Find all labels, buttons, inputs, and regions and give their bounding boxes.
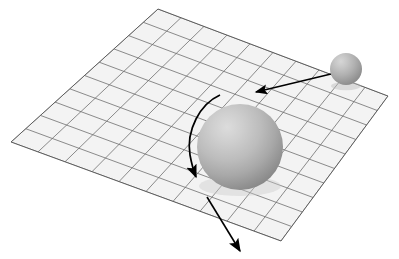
figure-root: Curved spacetime grid with massive body … xyxy=(0,0,399,259)
small-sphere xyxy=(330,53,362,90)
spacetime-sheet xyxy=(11,9,388,241)
small-sphere-body xyxy=(330,53,362,85)
spacetime-diagram xyxy=(0,0,399,259)
large-sphere-body xyxy=(197,104,283,190)
large-sphere xyxy=(197,104,283,196)
